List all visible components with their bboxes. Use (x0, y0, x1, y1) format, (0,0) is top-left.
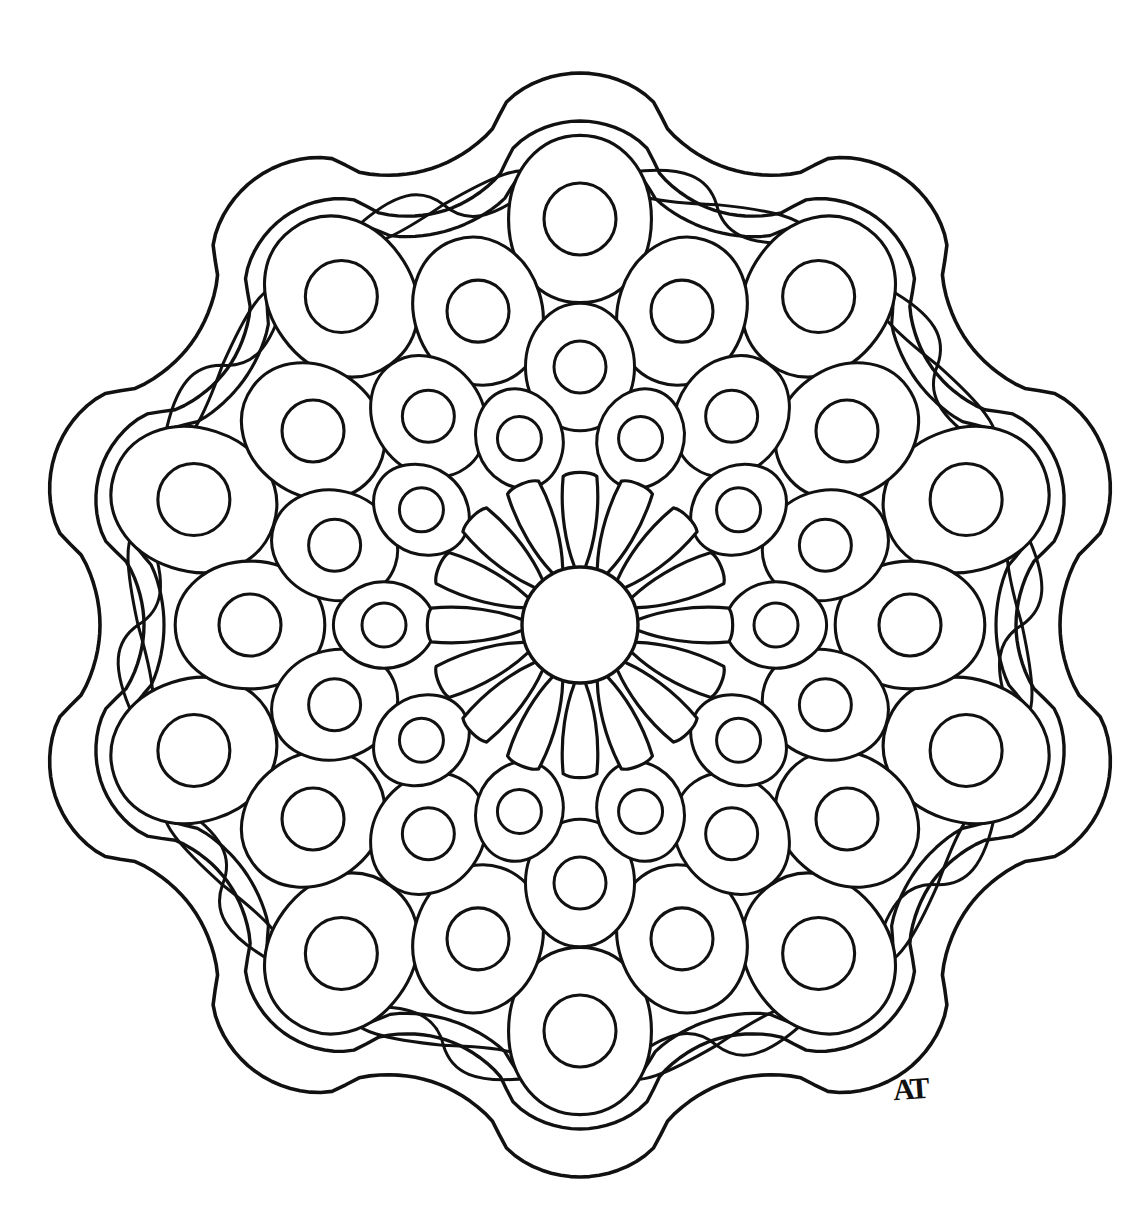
mandala-page: AT (0, 0, 1147, 1225)
mandala-cell (333, 582, 434, 668)
mandala-cell (725, 582, 826, 668)
mandala-petal (562, 472, 598, 565)
mandala-petal (640, 607, 733, 643)
mandala-petal (427, 607, 520, 643)
mandala-cell (265, 216, 419, 377)
mandala-petal (562, 685, 598, 778)
artist-signature: AT (892, 1071, 928, 1107)
mandala-cell (742, 216, 896, 377)
mandala-cell (265, 873, 419, 1034)
mandala-cell (742, 873, 896, 1034)
center-circle (522, 567, 638, 683)
mandala-artwork (0, 0, 1147, 1225)
